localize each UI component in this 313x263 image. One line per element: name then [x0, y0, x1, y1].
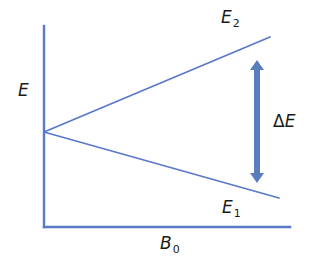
- x-axis-label-sub: 0: [173, 243, 180, 256]
- upper-energy-line: [44, 37, 270, 132]
- energy-diagram: [0, 0, 313, 263]
- upper-level-label-sub: 2: [233, 17, 240, 30]
- y-axis-label: E: [18, 82, 29, 99]
- x-axis-label: B0: [160, 235, 180, 255]
- x-axis-label-main: B: [160, 233, 172, 253]
- lower-level-label-sub: 1: [234, 207, 241, 220]
- lower-level-label-main: E: [222, 197, 233, 217]
- lower-level-label: E1: [222, 199, 241, 219]
- upper-level-label: E2: [221, 9, 240, 29]
- delta-e-double-arrow-icon: [250, 60, 264, 183]
- upper-level-label-main: E: [221, 7, 232, 27]
- delta-symbol: Δ: [273, 111, 285, 131]
- lower-energy-line: [44, 132, 279, 198]
- y-axis-label-main: E: [18, 80, 29, 100]
- delta-e-label: ΔE: [273, 113, 295, 130]
- delta-e-label-main: E: [285, 111, 296, 131]
